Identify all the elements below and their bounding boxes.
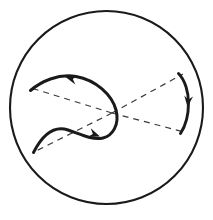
diagram-svg: [0, 0, 213, 220]
figure-canvas: [0, 0, 213, 220]
figure-background: [0, 0, 213, 220]
